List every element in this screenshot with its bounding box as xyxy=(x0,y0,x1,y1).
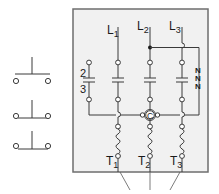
aux-label-3: 3 xyxy=(80,83,86,95)
starter-panel xyxy=(73,9,208,172)
switch-symbol-2 xyxy=(13,100,50,119)
svg-text:N: N xyxy=(195,82,201,91)
overload-symbols: N N N xyxy=(195,66,201,91)
wiring-diagram: L1 L2 L3 xyxy=(0,0,219,194)
coil-label: C xyxy=(147,111,153,121)
aux-label-2: 2 xyxy=(80,67,86,79)
switch-symbol-3 xyxy=(13,131,50,149)
switch-symbol-1 xyxy=(13,57,50,84)
motor-leads xyxy=(120,172,180,190)
